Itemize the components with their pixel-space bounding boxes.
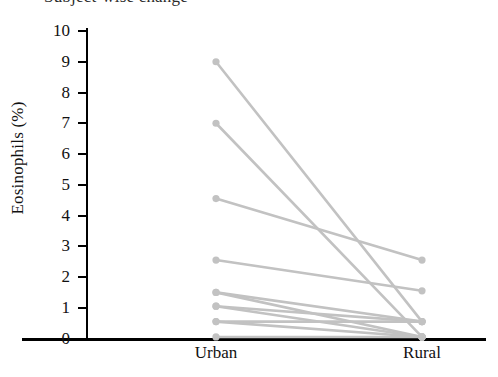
- data-point-subject-4-urban: [212, 256, 219, 263]
- x-tick-label-rural: Rural: [362, 344, 482, 362]
- data-point-subject-6-urban: [212, 289, 219, 296]
- slope-line-subject-7: [216, 306, 422, 321]
- data-point-subject-2-urban: [212, 120, 219, 127]
- slope-line-subject-1: [216, 62, 422, 322]
- slope-line-subject-4: [216, 260, 422, 291]
- data-point-subject-4-rural: [418, 287, 425, 294]
- data-point-subject-3-urban: [212, 195, 219, 202]
- data-point-subject-10-urban: [212, 318, 219, 325]
- data-point-subject-1-urban: [212, 58, 219, 65]
- chart-container: Subject-wise change Eosinophils (%) 0123…: [0, 0, 498, 377]
- data-point-subject-8-urban: [212, 303, 219, 310]
- data-point-subject-9-rural: [418, 318, 425, 325]
- data-point-subject-11-urban: [212, 333, 219, 340]
- slope-line-subject-5: [216, 292, 422, 321]
- data-point-subject-11-rural: [418, 333, 425, 340]
- slope-lines-plot: [0, 0, 498, 377]
- slope-line-subject-3: [216, 199, 422, 261]
- data-point-subject-3-rural: [418, 256, 425, 263]
- x-tick-label-urban: Urban: [156, 344, 276, 362]
